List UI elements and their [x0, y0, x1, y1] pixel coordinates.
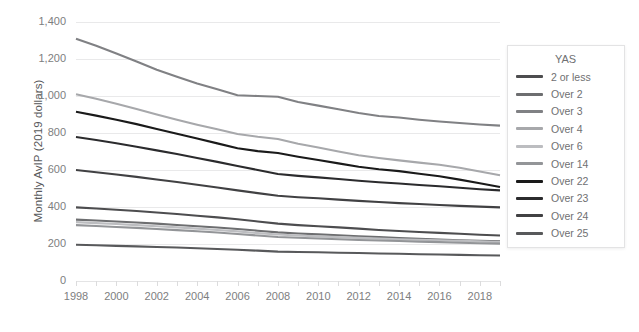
- x-minor-tick: [197, 281, 198, 286]
- x-minor-tick: [298, 281, 299, 286]
- x-minor-tick: [338, 281, 339, 286]
- legend-swatch-icon: [516, 232, 543, 235]
- x-tick-label: 2006: [225, 290, 249, 302]
- x-tick-label: 2012: [346, 290, 370, 302]
- x-minor-tick: [379, 281, 380, 286]
- x-minor-tick: [177, 281, 178, 286]
- series-line: [76, 94, 500, 175]
- legend-item[interactable]: Over 14: [508, 155, 624, 172]
- x-tick-label: 2016: [427, 290, 451, 302]
- legend-item-label: Over 23: [551, 192, 588, 204]
- legend-item-label: Over 4: [551, 123, 583, 135]
- x-minor-tick: [439, 281, 440, 286]
- legend-swatch-icon: [516, 93, 543, 96]
- legend-item[interactable]: 2 or less: [508, 68, 624, 85]
- legend-item-label: Over 14: [551, 158, 588, 170]
- x-minor-tick: [96, 281, 97, 286]
- legend-item[interactable]: Over 6: [508, 138, 624, 155]
- legend-item-label: Over 2: [551, 88, 583, 100]
- series-line: [76, 39, 500, 126]
- y-tick-label: 400: [0, 200, 66, 212]
- legend-item[interactable]: Over 22: [508, 172, 624, 189]
- x-minor-tick: [419, 281, 420, 286]
- x-minor-tick: [318, 281, 319, 286]
- legend-item[interactable]: Over 25: [508, 225, 624, 242]
- legend-item-label: Over 22: [551, 175, 588, 187]
- x-tick-label: 2000: [104, 290, 128, 302]
- legend-swatch-icon: [516, 75, 543, 78]
- x-minor-tick: [359, 281, 360, 286]
- legend-swatch-icon: [516, 214, 543, 217]
- x-tick-label: 2008: [266, 290, 290, 302]
- legend-item-label: Over 6: [551, 140, 583, 152]
- x-minor-tick: [460, 281, 461, 286]
- legend-item-label: Over 24: [551, 210, 588, 222]
- x-minor-tick: [238, 281, 239, 286]
- x-minor-tick: [278, 281, 279, 286]
- x-tick-label: 2018: [468, 290, 492, 302]
- legend-swatch-icon: [516, 197, 543, 200]
- x-tick-label: 1998: [64, 290, 88, 302]
- y-tick-label: 1,200: [0, 52, 66, 64]
- x-minor-tick: [116, 281, 117, 286]
- chart-legend[interactable]: YAS 2 or lessOver 2Over 3Over 4Over 6Ove…: [507, 45, 625, 248]
- x-minor-tick: [399, 281, 400, 286]
- x-minor-tick: [76, 281, 77, 286]
- legend-item[interactable]: Over 3: [508, 103, 624, 120]
- legend-item-list: 2 or lessOver 2Over 3Over 4Over 6Over 14…: [508, 68, 624, 242]
- legend-item[interactable]: Over 24: [508, 207, 624, 224]
- legend-swatch-icon: [516, 180, 543, 183]
- x-minor-tick: [500, 281, 501, 286]
- y-tick-label: 200: [0, 237, 66, 249]
- x-axis-line: [76, 281, 500, 282]
- legend-item-label: Over 25: [551, 227, 588, 239]
- y-tick-label: 600: [0, 163, 66, 175]
- legend-item-label: 2 or less: [551, 71, 591, 83]
- x-minor-tick: [258, 281, 259, 286]
- legend-swatch-icon: [516, 162, 543, 165]
- y-tick-label: 800: [0, 126, 66, 138]
- series-line: [76, 245, 500, 256]
- series-line: [76, 207, 500, 235]
- legend-title: YAS: [508, 53, 624, 65]
- legend-item[interactable]: Over 4: [508, 120, 624, 137]
- x-tick-label: 2004: [185, 290, 209, 302]
- y-axis-zero-label: 0: [0, 274, 66, 286]
- legend-swatch-icon: [516, 145, 543, 148]
- legend-item[interactable]: Over 2: [508, 85, 624, 102]
- line-chart: Monthly AvIP (2019 dollars) 200400600800…: [0, 0, 639, 332]
- y-tick-label: 1,400: [0, 15, 66, 27]
- legend-swatch-icon: [516, 110, 543, 113]
- legend-item-label: Over 3: [551, 105, 583, 117]
- legend-swatch-icon: [516, 127, 543, 130]
- x-minor-tick: [480, 281, 481, 286]
- plot-area: [76, 22, 500, 281]
- series-lines: [76, 22, 500, 281]
- x-tick-label: 2010: [306, 290, 330, 302]
- x-minor-tick: [137, 281, 138, 286]
- x-tick-label: 2014: [387, 290, 411, 302]
- x-minor-tick: [157, 281, 158, 286]
- y-tick-label: 1,000: [0, 89, 66, 101]
- x-tick-label: 2002: [145, 290, 169, 302]
- legend-item[interactable]: Over 23: [508, 190, 624, 207]
- x-minor-tick: [217, 281, 218, 286]
